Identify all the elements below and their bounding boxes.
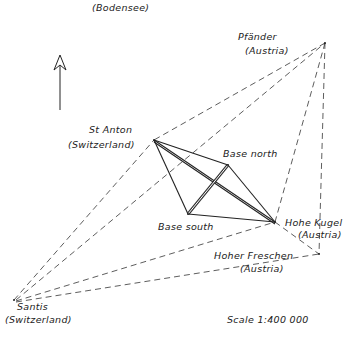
line-st-anton-base-north — [154, 140, 228, 165]
triangulation-diagram: (Bodensee) Pfänder (Austria) St Anton (S… — [0, 0, 349, 341]
label-hoher-freschen-name: Hoher Freschen — [214, 250, 293, 261]
point-st-anton — [153, 139, 155, 141]
point-santis — [13, 299, 15, 301]
north-arrow-icon — [54, 55, 66, 110]
label-santis-country: (Switzerland) — [5, 314, 72, 325]
label-base-north: Base north — [223, 148, 278, 159]
line-santis-hohe-kugel — [16, 222, 275, 301]
label-pfander-name: Pfänder — [238, 31, 278, 42]
line-pfander-st-anton — [154, 43, 325, 140]
line-base-north-hohe-kugel — [228, 165, 275, 222]
label-st-anton-name: St Anton — [89, 124, 132, 135]
line-santis-pfander — [16, 43, 325, 300]
label-santis-name: Santis — [17, 301, 48, 312]
point-base-north — [227, 164, 229, 166]
label-hohe-kugel-country: (Austria) — [298, 229, 342, 240]
point-pfander — [324, 42, 326, 44]
label-pfander-country: (Austria) — [245, 45, 289, 56]
label-hoher-freschen-country: (Austria) — [240, 263, 284, 274]
label-hohe-kugel-name: Hohe Kugel — [285, 217, 342, 228]
scale-label: Scale 1:400 000 — [227, 314, 309, 325]
line-santis-st-anton — [14, 140, 154, 300]
label-base-south: Base south — [158, 221, 214, 232]
base-line-inner — [188, 165, 228, 214]
label-st-anton-country: (Switzerland) — [68, 139, 135, 150]
point-base-south — [187, 213, 189, 215]
point-hoher-freschen — [318, 253, 320, 255]
label-bodensee: (Bodensee) — [92, 2, 149, 13]
point-hohe-kugel — [274, 221, 276, 223]
line-santis-hoher-freschen — [16, 254, 319, 302]
line-pfander-hohe-kugel — [275, 43, 325, 222]
